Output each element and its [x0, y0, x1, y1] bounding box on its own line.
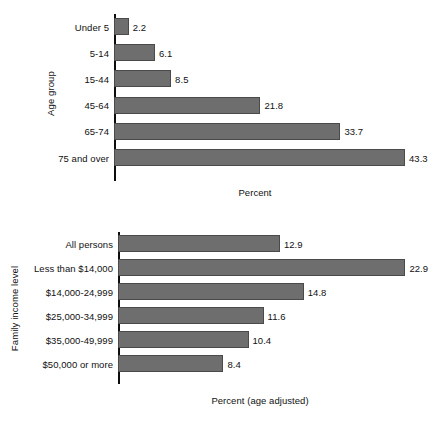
- bar: [118, 283, 304, 300]
- bar-row: 45-6421.8: [0, 97, 446, 114]
- bar-value-label: 10.4: [253, 334, 272, 345]
- bar-row: 65-7433.7: [0, 123, 446, 140]
- bar: [114, 123, 340, 140]
- bar: [114, 44, 155, 61]
- bar-row: Less than $14,00022.9: [0, 259, 446, 276]
- bar: [114, 70, 171, 87]
- bar-row: $14,000-24,99914.8: [0, 283, 446, 300]
- bar-row: $25,000-34,99911.6: [0, 307, 446, 324]
- bar: [118, 355, 223, 372]
- bar-category-label: All persons: [0, 238, 113, 249]
- bar-category-label: $14,000-24,999: [0, 286, 113, 297]
- family-income-bar-chart: Family income level All persons12.9Less …: [0, 210, 446, 421]
- bar-row: All persons12.9: [0, 235, 446, 252]
- bar-category-label: $50,000 or more: [0, 358, 113, 369]
- bar-row: $35,000-49,99910.4: [0, 331, 446, 348]
- bar-value-label: 43.3: [409, 152, 428, 163]
- bar-value-label: 21.8: [264, 100, 283, 111]
- bar-category-label: $35,000-49,999: [0, 334, 113, 345]
- bar-category-label: Under 5: [0, 21, 109, 32]
- bar-value-label: 8.5: [175, 73, 188, 84]
- age-group-bar-chart: Age group Under 52.25-146.115-448.545-64…: [0, 0, 446, 210]
- bar: [118, 259, 405, 276]
- bar-category-label: 5-14: [0, 47, 109, 58]
- bar-category-label: 15-44: [0, 73, 109, 84]
- bar: [118, 331, 249, 348]
- bar: [118, 307, 264, 324]
- bar-value-label: 12.9: [284, 238, 303, 249]
- bar-value-label: 14.8: [308, 286, 327, 297]
- bar-value-label: 11.6: [268, 310, 286, 321]
- bar-category-label: 65-74: [0, 126, 109, 137]
- chart-top-x-axis-title: Percent: [180, 187, 330, 198]
- bar: [114, 97, 260, 114]
- bar-row: 15-448.5: [0, 70, 446, 87]
- bar-row: 75 and over43.3: [0, 149, 446, 166]
- bar-value-label: 33.7: [344, 126, 363, 137]
- bar-row: 5-146.1: [0, 44, 446, 61]
- chart-bottom-x-axis-title: Percent (age adjusted): [160, 395, 360, 406]
- bar-value-label: 8.4: [227, 358, 240, 369]
- bar-category-label: 75 and over: [0, 152, 109, 163]
- bar-value-label: 22.9: [409, 262, 428, 273]
- bar-category-label: 45-64: [0, 100, 109, 111]
- bar-row: $50,000 or more8.4: [0, 355, 446, 372]
- bar-value-label: 6.1: [159, 47, 172, 58]
- bar: [114, 149, 405, 166]
- bar-category-label: $25,000-34,999: [0, 310, 113, 321]
- bar: [118, 235, 280, 252]
- bar: [114, 18, 129, 35]
- bar-row: Under 52.2: [0, 18, 446, 35]
- bar-category-label: Less than $14,000: [0, 262, 113, 273]
- bar-value-label: 2.2: [133, 21, 146, 32]
